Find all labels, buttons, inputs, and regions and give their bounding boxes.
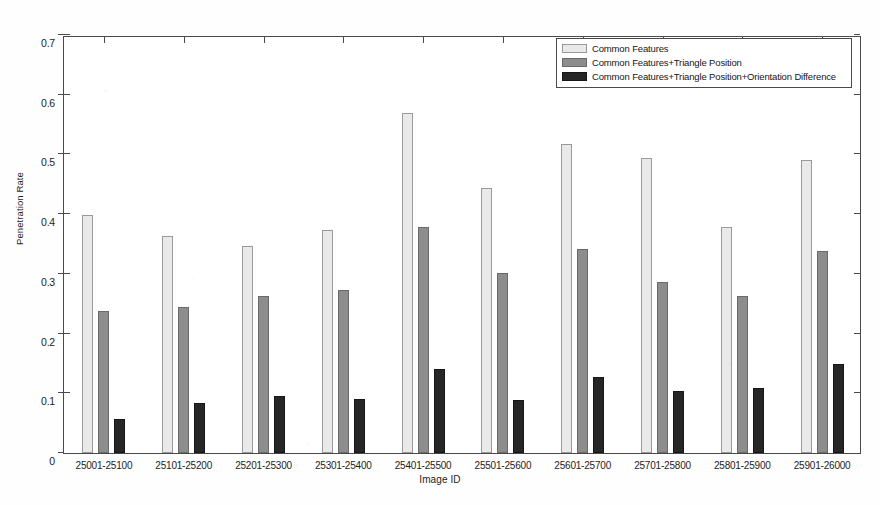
chart-legend: Common FeaturesCommon Features+Triangle … — [556, 38, 852, 88]
plot-area: 00.10.20.30.40.50.60.7 25001-2510025101-… — [63, 36, 861, 454]
x-tick-label: 25001-25100 — [76, 460, 133, 471]
bar — [641, 158, 652, 453]
bar — [338, 290, 349, 453]
x-tick-label: 25101-25200 — [155, 460, 212, 471]
bar — [673, 391, 684, 453]
bar — [434, 369, 445, 453]
x-tick-label: 25601-25700 — [554, 460, 611, 471]
x-tick-label: 25401-25500 — [395, 460, 452, 471]
legend-swatch-icon — [562, 44, 587, 53]
bar — [577, 249, 588, 453]
y-tick-mark — [58, 452, 64, 453]
x-tick-mark-top — [423, 37, 424, 43]
bar — [274, 396, 285, 453]
y-tick-mark-right — [854, 34, 860, 35]
bar — [657, 282, 668, 453]
bar — [402, 113, 413, 453]
x-axis-title: Image ID — [0, 474, 880, 485]
y-tick-mark-right — [854, 273, 860, 274]
x-tick-label: 25501-25600 — [475, 460, 532, 471]
bar — [114, 419, 125, 453]
x-tick-label: 25201-25300 — [235, 460, 292, 471]
x-tick-label: 25801-25900 — [714, 460, 771, 471]
bar — [817, 251, 828, 453]
x-tick-mark-top — [184, 37, 185, 43]
y-tick-mark-inner — [64, 333, 70, 334]
x-tick-label: 25701-25800 — [634, 460, 691, 471]
y-tick-mark-right — [854, 94, 860, 95]
x-tick-mark-top — [264, 37, 265, 43]
y-tick-mark-right — [854, 333, 860, 334]
bar — [322, 230, 333, 453]
bar — [833, 364, 844, 453]
bar — [194, 403, 205, 453]
bar — [98, 311, 109, 453]
bar — [721, 227, 732, 453]
legend-swatch-icon — [562, 72, 587, 81]
bar — [178, 307, 189, 453]
bar — [162, 236, 173, 453]
bar — [753, 388, 764, 453]
bar — [561, 144, 572, 453]
bar — [481, 188, 492, 453]
x-tick-mark-top — [104, 37, 105, 43]
y-tick-mark-inner — [64, 34, 70, 35]
y-tick-mark-right — [854, 153, 860, 154]
legend-item: Common Features — [562, 42, 847, 55]
x-tick-mark-top — [503, 37, 504, 43]
legend-item: Common Features+Triangle Position+Orient… — [562, 70, 847, 83]
bar — [593, 377, 604, 453]
legend-label: Common Features+Triangle Position — [592, 57, 742, 68]
bar — [801, 160, 812, 453]
y-axis-title: Penetration Rate — [14, 172, 25, 245]
legend-label: Common Features — [592, 43, 668, 54]
y-tick-mark-inner — [64, 392, 70, 393]
legend-label: Common Features+Triangle Position+Orient… — [592, 71, 836, 82]
legend-item: Common Features+Triangle Position — [562, 56, 847, 69]
x-tick-mark-top — [343, 37, 344, 43]
bar — [513, 400, 524, 453]
bar — [737, 296, 748, 453]
y-tick-mark-inner — [64, 153, 70, 154]
bar — [354, 399, 365, 453]
y-tick-mark-inner — [64, 213, 70, 214]
y-tick-mark-inner — [64, 94, 70, 95]
y-tick-mark-right — [854, 392, 860, 393]
y-tick-mark-inner — [64, 273, 70, 274]
bar — [497, 273, 508, 453]
legend-swatch-icon — [562, 58, 587, 67]
figure-canvas: Penetration Rate 00.10.20.30.40.50.60.7 … — [0, 0, 880, 505]
y-tick-mark-right — [854, 213, 860, 214]
bar — [242, 246, 253, 453]
bar — [82, 215, 93, 453]
bar — [418, 227, 429, 453]
x-tick-label: 25901-26000 — [794, 460, 851, 471]
x-tick-label: 25301-25400 — [315, 460, 372, 471]
bar — [258, 296, 269, 453]
